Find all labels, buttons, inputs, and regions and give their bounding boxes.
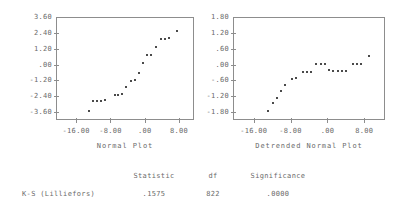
detrended-plot-frame bbox=[233, 17, 385, 120]
data-point bbox=[328, 69, 330, 71]
y-axis-tick-label: .00 bbox=[185, 62, 229, 69]
header-significance: Significance bbox=[240, 172, 316, 181]
data-point bbox=[117, 94, 119, 96]
data-point bbox=[341, 70, 343, 72]
y-axis-tick-label: -1.20 bbox=[185, 93, 229, 100]
header-df: df bbox=[196, 172, 230, 181]
x-axis-tick bbox=[364, 118, 365, 123]
data-point bbox=[114, 94, 116, 96]
data-point bbox=[368, 55, 370, 57]
y-axis-tick-label: 1.20 bbox=[8, 46, 52, 53]
data-point bbox=[176, 30, 178, 32]
data-point bbox=[96, 100, 98, 102]
data-point bbox=[155, 46, 157, 48]
table-row: K-S (Lilliefors) .1575 822 .0000 bbox=[0, 190, 404, 204]
y-axis-tick bbox=[54, 96, 59, 97]
y-axis-tick-label: -2.40 bbox=[8, 93, 52, 100]
data-point bbox=[324, 63, 326, 65]
data-point bbox=[356, 63, 358, 65]
data-point bbox=[345, 70, 347, 72]
y-axis-tick-label: -.60 bbox=[185, 77, 229, 84]
row-test-name: K-S (Lilliefors) bbox=[22, 190, 95, 199]
y-axis-tick-label: 1.20 bbox=[185, 30, 229, 37]
y-axis-tick bbox=[231, 96, 236, 97]
statistics-table: Statistic df Significance K-S (Lilliefor… bbox=[0, 168, 404, 211]
normal-plot-panel: 3.602.401.20.00-1.20-2.40-3.60 -16.00-8.… bbox=[0, 0, 202, 160]
row-significance-value: .0000 bbox=[240, 190, 316, 199]
x-axis-tick-label: 8.00 bbox=[342, 128, 386, 135]
data-point bbox=[315, 63, 317, 65]
data-point bbox=[295, 77, 297, 79]
x-axis-tick bbox=[327, 118, 328, 123]
normal-plot-data-area bbox=[57, 18, 193, 119]
row-df-value: 822 bbox=[196, 190, 230, 199]
data-point bbox=[130, 80, 132, 82]
data-point bbox=[291, 78, 293, 80]
y-axis-tick bbox=[231, 80, 236, 81]
data-point bbox=[306, 71, 308, 73]
data-point bbox=[272, 102, 274, 104]
data-point bbox=[280, 90, 282, 92]
y-axis-tick bbox=[54, 33, 59, 34]
data-point bbox=[276, 97, 278, 99]
table-header-row: Statistic df Significance bbox=[0, 172, 404, 186]
data-point bbox=[332, 70, 334, 72]
y-axis-tick-label: -1.20 bbox=[8, 77, 52, 84]
y-axis-tick bbox=[54, 49, 59, 50]
x-axis-tick bbox=[145, 118, 146, 123]
y-axis-tick-label: 3.60 bbox=[8, 14, 52, 21]
data-point bbox=[146, 54, 148, 56]
normal-plot-frame bbox=[56, 17, 194, 120]
y-axis-tick-label: -3.60 bbox=[8, 109, 52, 116]
data-point bbox=[134, 79, 136, 81]
x-axis-tick bbox=[76, 118, 77, 123]
y-axis-tick-label: 2.40 bbox=[8, 30, 52, 37]
x-axis-tick bbox=[179, 118, 180, 123]
data-point bbox=[267, 110, 269, 112]
data-point bbox=[302, 71, 304, 73]
data-point bbox=[284, 84, 286, 86]
y-axis-tick-label: 1.80 bbox=[185, 14, 229, 21]
x-axis-tick bbox=[291, 118, 292, 123]
data-point bbox=[160, 38, 162, 40]
data-point bbox=[337, 70, 339, 72]
y-axis-tick-label: .00 bbox=[8, 62, 52, 69]
data-point bbox=[121, 93, 123, 95]
data-point bbox=[92, 100, 94, 102]
normal-plot-axis-title: Normal Plot bbox=[56, 142, 194, 150]
data-point bbox=[168, 37, 170, 39]
y-axis-tick bbox=[231, 49, 236, 50]
data-point bbox=[142, 62, 144, 64]
y-axis-tick bbox=[231, 33, 236, 34]
data-point bbox=[138, 72, 140, 74]
data-point bbox=[320, 63, 322, 65]
data-point bbox=[104, 99, 106, 101]
y-axis-tick bbox=[54, 112, 59, 113]
y-axis-tick-label: -1.80 bbox=[185, 109, 229, 116]
data-point bbox=[125, 86, 127, 88]
data-point bbox=[150, 54, 152, 56]
data-point bbox=[88, 110, 90, 112]
row-statistic-value: .1575 bbox=[120, 190, 188, 199]
data-point bbox=[100, 100, 102, 102]
x-axis-tick bbox=[254, 118, 255, 123]
data-point bbox=[164, 38, 166, 40]
detrended-plot-data-area bbox=[234, 18, 384, 119]
header-statistic: Statistic bbox=[120, 172, 188, 181]
y-axis-tick bbox=[231, 65, 236, 66]
y-axis-tick-label: .60 bbox=[185, 46, 229, 53]
data-point bbox=[352, 63, 354, 65]
y-axis-tick bbox=[54, 80, 59, 81]
detrended-plot-axis-title: Detrended Normal Plot bbox=[233, 142, 385, 150]
x-axis-tick-label: 8.00 bbox=[157, 128, 201, 135]
y-axis-tick bbox=[231, 112, 236, 113]
data-point bbox=[310, 71, 312, 73]
data-point bbox=[360, 63, 362, 65]
detrended-normal-plot-panel: 1.801.20.60.00-.60-1.20-1.80 -16.00-8.00… bbox=[200, 0, 404, 160]
x-axis-tick bbox=[110, 118, 111, 123]
y-axis-tick bbox=[54, 65, 59, 66]
